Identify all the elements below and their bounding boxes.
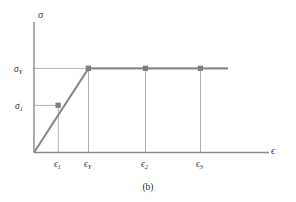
x-tick-label-epsilon-1: ϵ1	[54, 159, 61, 170]
x-tick-label-epsilon-3: ϵ3	[196, 159, 204, 170]
axis-titles: σ ϵ	[38, 9, 276, 156]
x-tick-label-epsilon-2: ϵ2	[141, 159, 149, 170]
y-tick-label-sigma-1: σ1	[15, 101, 23, 112]
x-tick-epsilon-y-subscript: Y	[88, 163, 93, 170]
guide-lines	[34, 68, 201, 152]
x-axis-label: ϵ	[271, 145, 276, 156]
y-tick-labels: σY σ1	[14, 64, 24, 112]
y-tick-sigma-y-subscript: Y	[19, 68, 24, 75]
y-tick-sigma-1-subscript: 1	[20, 105, 23, 112]
stress-strain-curve-path	[34, 68, 228, 152]
stress-strain-chart: σ ϵ σY σ1 ϵ1 ϵY ϵ2 ϵ3	[0, 0, 296, 202]
x-tick-epsilon-2-subscript: 2	[145, 163, 149, 170]
data-point-epsilon-2	[143, 66, 148, 71]
x-tick-epsilon-1-subscript: 1	[58, 163, 61, 170]
figure-caption: (b)	[142, 182, 153, 193]
x-tick-label-epsilon-y: ϵY	[84, 159, 93, 170]
x-tick-labels: ϵ1 ϵY ϵ2 ϵ3	[54, 159, 204, 170]
data-point-epsilon-y	[86, 66, 91, 71]
data-point-epsilon-3	[198, 66, 203, 71]
y-axis-label: σ	[38, 9, 44, 20]
x-tick-epsilon-3-subscript: 3	[199, 163, 204, 170]
figure-container: σ ϵ σY σ1 ϵ1 ϵY ϵ2 ϵ3	[0, 0, 296, 202]
data-point-epsilon-1	[56, 103, 61, 108]
axes	[34, 22, 269, 153]
y-tick-label-sigma-y: σY	[14, 64, 24, 75]
curve	[34, 68, 228, 152]
